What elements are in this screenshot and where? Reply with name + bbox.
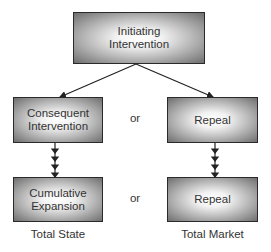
box-label: Expansion [29,200,87,213]
or-label-middle: or [125,112,145,124]
box-label: Initiating [109,25,169,38]
box-label: Cumulative [29,187,87,200]
box-label: Repeal [194,114,230,127]
box-label: Repeal [194,193,230,206]
total-state-caption: Total State [13,228,103,240]
repeal-box-bottom: Repeal [167,177,258,222]
repeal-box-middle: Repeal [167,97,258,143]
box-label: Intervention [27,120,89,133]
box-label: Intervention [109,38,169,51]
cumulative-expansion-box: Cumulative Expansion [13,177,103,222]
consequent-intervention-box: Consequent Intervention [13,97,103,143]
or-label-bottom: or [125,192,145,204]
box-label: Consequent [27,107,89,120]
total-market-caption: Total Market [167,228,258,240]
initiating-intervention-box: Initiating Intervention [73,12,205,64]
